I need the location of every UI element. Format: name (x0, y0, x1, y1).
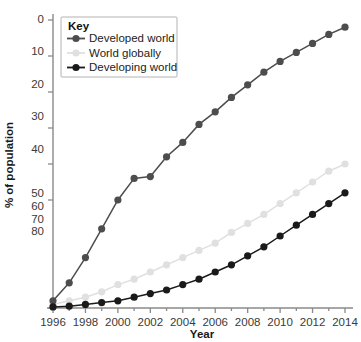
x-tick-label-2010: 2010 (267, 316, 293, 328)
data-point (277, 232, 284, 239)
x-tick-label-2004: 2004 (170, 316, 196, 328)
x-tick-label-2006: 2006 (202, 316, 228, 328)
legend-swatch-marker (72, 64, 79, 71)
data-point (325, 168, 332, 175)
legend-entries: Developed worldWorld globallyDeveloping … (67, 32, 177, 73)
data-point (309, 178, 316, 185)
legend-swatch-marker (72, 35, 79, 42)
y-tick-label-80: 0 (38, 13, 44, 25)
y-tick-label-20: 60 (31, 200, 44, 212)
line-chart: 80706050403020100 1996199820002002200420… (0, 0, 361, 342)
x-axis-tick-labels: 1996199820002002200420062008201020122014 (40, 316, 358, 328)
data-point (98, 288, 105, 295)
data-point (277, 58, 284, 65)
data-point (179, 139, 186, 146)
data-point (147, 268, 154, 275)
legend-swatch-marker (72, 49, 79, 56)
data-point (212, 240, 219, 247)
y-tick-label-30: 50 (31, 187, 44, 199)
data-point (244, 220, 251, 227)
data-point (114, 196, 121, 203)
data-point (228, 261, 235, 268)
y-tick-label-50: 30 (31, 110, 44, 122)
y-tick-label-0: 80 (31, 225, 44, 237)
data-point (341, 160, 348, 167)
data-point (341, 24, 348, 31)
y-axis-title: % of population (3, 122, 15, 208)
data-point (147, 173, 154, 180)
data-point (147, 290, 154, 297)
data-point (277, 200, 284, 207)
data-point (195, 121, 202, 128)
x-tick-label-2014: 2014 (332, 316, 358, 328)
data-point (293, 222, 300, 229)
data-point (163, 261, 170, 268)
y-tick-label-10: 70 (31, 213, 44, 225)
x-tick-label-1996: 1996 (40, 316, 66, 328)
data-point (66, 303, 73, 310)
data-point (260, 69, 267, 76)
data-point (244, 252, 251, 259)
data-point (293, 49, 300, 56)
data-point (212, 268, 219, 275)
data-point (163, 286, 170, 293)
x-tick-label-2002: 2002 (138, 316, 164, 328)
data-point (49, 297, 56, 304)
series-line (53, 164, 345, 304)
data-point (212, 108, 219, 115)
chart-legend: Key Developed worldWorld globallyDevelop… (61, 17, 177, 77)
data-point (309, 40, 316, 47)
x-tick-label-2008: 2008 (235, 316, 261, 328)
y-tick-label-40: 40 (31, 143, 44, 155)
data-point (82, 294, 89, 301)
legend-item-label: Developed world (89, 32, 175, 44)
data-point (163, 153, 170, 160)
legend-item-label: Developing world (89, 61, 177, 73)
y-axis-ticks (48, 20, 53, 308)
data-point (98, 299, 105, 306)
legend-title: Key (68, 20, 90, 32)
y-tick-label-60: 20 (31, 78, 44, 90)
x-tick-label-1998: 1998 (73, 316, 99, 328)
data-point (260, 211, 267, 218)
y-axis-tick-labels: 80706050403020100 (31, 13, 44, 237)
data-point (325, 31, 332, 38)
data-point (260, 243, 267, 250)
data-point (309, 211, 316, 218)
data-point (195, 247, 202, 254)
series-world-globally (49, 160, 348, 308)
data-point (228, 229, 235, 236)
legend-item-label: World globally (89, 47, 161, 59)
data-point (195, 276, 202, 283)
data-point (82, 301, 89, 308)
data-point (179, 254, 186, 261)
data-point (131, 175, 138, 182)
x-axis-ticks (53, 308, 345, 313)
data-point (66, 279, 73, 286)
data-point (325, 200, 332, 207)
data-point (114, 281, 121, 288)
data-point (98, 225, 105, 232)
data-point (228, 94, 235, 101)
chart-canvas: 80706050403020100 1996199820002002200420… (0, 0, 361, 342)
data-point (131, 294, 138, 301)
data-point (293, 189, 300, 196)
data-point (341, 189, 348, 196)
data-point (49, 303, 56, 310)
y-tick-label-70: 10 (31, 45, 44, 57)
data-point (114, 297, 121, 304)
x-axis-title: Year (190, 328, 215, 340)
x-tick-label-2012: 2012 (300, 316, 326, 328)
data-point (82, 254, 89, 261)
x-tick-label-2000: 2000 (105, 316, 131, 328)
data-point (131, 276, 138, 283)
data-point (244, 81, 251, 88)
data-point (179, 281, 186, 288)
